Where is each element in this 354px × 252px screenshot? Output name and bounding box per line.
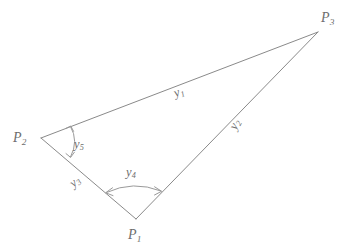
- vertex-label-p1-sub: 1: [137, 234, 142, 244]
- angle-label-y4-sub: 4: [132, 171, 136, 180]
- vertex-label-p2-base: P: [13, 130, 22, 145]
- angle-arc-y4-path: [107, 186, 162, 193]
- angle-arc-y5-arrow-bottom: [66, 152, 74, 157]
- vertex-label-p1-base: P: [128, 227, 137, 242]
- vertex-label-p3: P3: [321, 11, 334, 25]
- triangle-edges: [41, 32, 318, 219]
- vertex-label-p2: P2: [13, 131, 26, 145]
- vertex-label-p3-base: P: [321, 10, 330, 25]
- angle-label-y4: y4: [126, 166, 136, 179]
- vertex-label-p3-sub: 3: [330, 17, 335, 27]
- vertex-label-p1: P1: [128, 228, 141, 242]
- angle-label-y5: y5: [74, 138, 84, 151]
- vertex-label-p2-sub: 2: [22, 137, 27, 147]
- angle-label-y5-base: y: [74, 137, 80, 151]
- angle-arc-y4: [106, 186, 162, 196]
- angle-label-y4-base: y: [126, 165, 132, 179]
- angle-label-y5-sub: 5: [80, 143, 84, 152]
- edge-y3-p2-p1: [41, 138, 136, 219]
- triangle-figure: P1 P2 P3 y1 y2 y3 y4 y5: [0, 0, 354, 252]
- triangle-diagram-svg: [0, 0, 354, 252]
